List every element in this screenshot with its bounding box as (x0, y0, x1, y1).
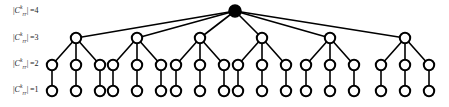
label-superscript: k (20, 83, 22, 89)
tree-node (400, 86, 410, 96)
tree-node (257, 86, 267, 96)
tree-node (400, 60, 410, 70)
tree-node (71, 33, 81, 43)
tree-node (195, 60, 205, 70)
tree-node (195, 33, 205, 43)
tree-node (71, 60, 81, 70)
tree-node (95, 60, 105, 70)
label-superscript: k (20, 4, 22, 10)
label-value: 4 (34, 6, 38, 15)
tree-node (400, 33, 410, 43)
tree-node (132, 33, 142, 43)
row-label-level-2: |Ckrr| =2 (13, 60, 38, 68)
tree-node (95, 86, 105, 96)
tree-graphic (0, 0, 449, 107)
label-value: 2 (34, 59, 38, 68)
tree-node (257, 60, 267, 70)
tree-node (156, 60, 166, 70)
tree-node (325, 86, 335, 96)
tree-node (376, 86, 386, 96)
tree-node (195, 86, 205, 96)
tree-node (71, 86, 81, 96)
tree-node (349, 60, 359, 70)
label-value: 3 (34, 33, 38, 42)
tree-node (301, 60, 311, 70)
tree-node (108, 86, 118, 96)
tree-node (424, 86, 434, 96)
nodes-layer (47, 5, 434, 96)
tree-node (156, 86, 166, 96)
tree-node (171, 60, 181, 70)
tree-node (281, 86, 291, 96)
label-value: 1 (34, 85, 38, 94)
label-superscript: k (20, 57, 22, 63)
tree-node (47, 60, 57, 70)
tree-node (108, 60, 118, 70)
tree-node (219, 60, 229, 70)
tree-edge (76, 11, 235, 38)
tree-node (281, 60, 291, 70)
tree-node (349, 86, 359, 96)
row-label-level-4: |Ckrr| =4 (13, 7, 38, 15)
tree-node (171, 86, 181, 96)
tree-diagram-figure: |Ckrr| =4 |Ckrr| =3 |Ckrr| =2 |Ckrr| =1 (0, 0, 449, 107)
tree-node (47, 86, 57, 96)
label-superscript: k (20, 31, 22, 37)
tree-node-root (229, 5, 241, 17)
row-label-level-1: |Ckrr| =1 (13, 86, 38, 94)
edges-layer (52, 11, 429, 91)
tree-node (325, 33, 335, 43)
tree-node (325, 60, 335, 70)
tree-node (233, 60, 243, 70)
tree-node (257, 33, 267, 43)
tree-node (132, 86, 142, 96)
tree-node (376, 60, 386, 70)
row-label-level-3: |Ckrr| =3 (13, 34, 38, 42)
tree-node (219, 86, 229, 96)
tree-node (132, 60, 142, 70)
tree-node (424, 60, 434, 70)
tree-node (301, 86, 311, 96)
tree-node (233, 86, 243, 96)
